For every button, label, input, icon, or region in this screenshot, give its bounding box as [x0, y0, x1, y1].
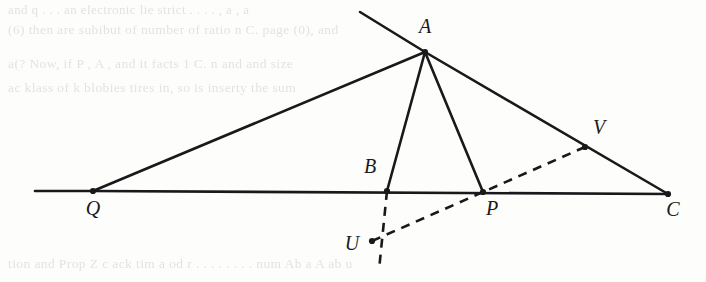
- point-label-p: P: [485, 197, 498, 219]
- segment-A-to-B: [387, 52, 425, 191]
- point-label-group: AQBPCUV: [86, 15, 681, 254]
- vertex-dot-c: [665, 191, 671, 197]
- line-through-Q-and-A-upper-extension: [360, 12, 425, 52]
- segment-A-to-C: [425, 52, 668, 194]
- vertex-dot-p: [480, 189, 486, 195]
- point-label-q: Q: [86, 197, 101, 219]
- solid-line-group: [35, 12, 668, 194]
- figure-page: and q . . . an electronic lie strict . .…: [0, 0, 706, 282]
- dashed-line-group: [372, 147, 585, 270]
- point-label-u: U: [345, 232, 361, 254]
- baseline-Q-to-C: [93, 191, 668, 194]
- geometry-figure: AQBPCUV: [0, 0, 706, 282]
- vertex-dot-b: [384, 188, 390, 194]
- vertex-dot-q: [90, 188, 96, 194]
- vertex-dot-a: [422, 49, 428, 55]
- point-label-c: C: [666, 198, 680, 220]
- segment-A-to-P: [425, 52, 483, 192]
- vertex-dot-u: [369, 238, 375, 244]
- point-label-v: V: [593, 116, 608, 138]
- vertex-dot-v: [582, 144, 588, 150]
- point-label-a: A: [417, 15, 432, 37]
- dashed-B-through-U-extended: [379, 191, 387, 270]
- point-label-b: B: [364, 155, 376, 177]
- vertex-dot-group: [90, 49, 671, 244]
